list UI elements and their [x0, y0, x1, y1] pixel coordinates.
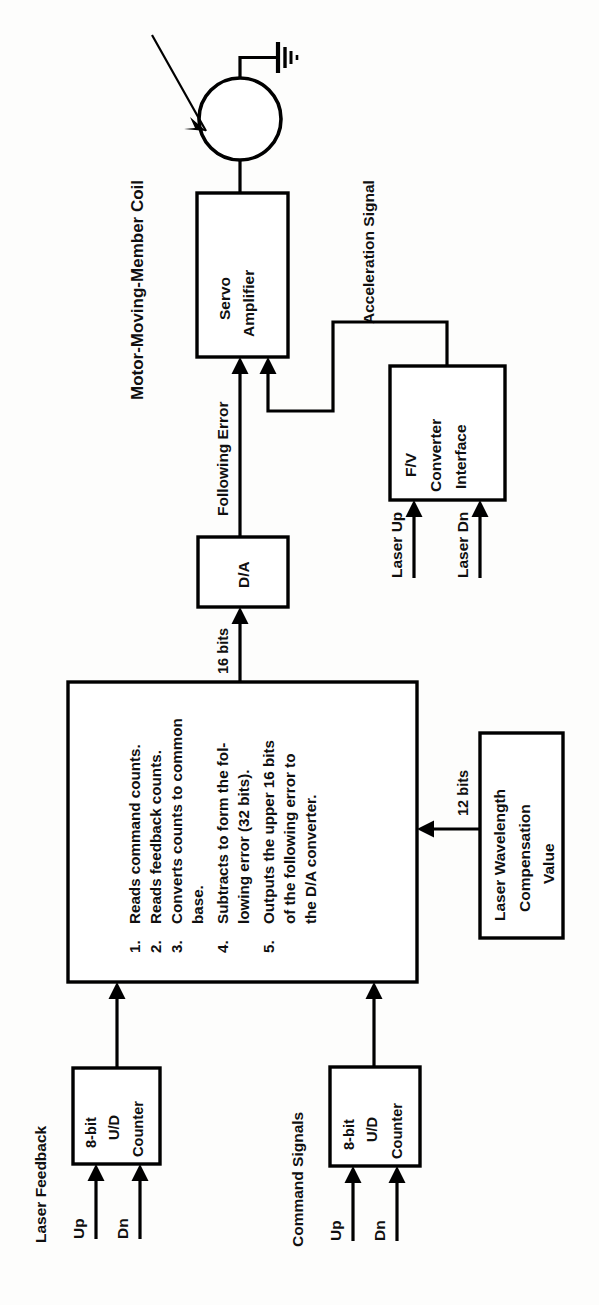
command-counter-line1: 8-bit	[341, 1119, 357, 1150]
servo-amplifier-label-line1: Servo	[216, 277, 233, 320]
laser-wavelength-label-line1: Laser Wavelength	[491, 789, 508, 921]
twelve-bits-label: 12 bits	[455, 770, 471, 816]
acceleration-arrowhead	[260, 357, 277, 374]
laser-feedback-counter-line3: Counter	[130, 1101, 146, 1157]
cpu-item-5-line-3: the D/A converter.	[302, 795, 319, 924]
laser-feedback-group-label: Laser Feedback	[32, 1125, 49, 1243]
feedback-up-label: Up	[70, 1218, 87, 1239]
coil-ground-lead	[240, 58, 278, 79]
laser-wavelength-label-line2: Compensation	[516, 804, 533, 912]
cpu-item-4-line-1: Subtracts to form the fol-	[214, 743, 231, 924]
command-counter-line3: Counter	[389, 1103, 405, 1159]
command-counter-line2: U/D	[364, 1117, 380, 1142]
command-up-label: Up	[327, 1220, 344, 1241]
sixteen-bits-label: 16 bits	[215, 628, 231, 674]
fv-converter-interface-block	[390, 366, 505, 500]
cpu-item-3-line-2: base.	[189, 885, 206, 924]
motor-coil-label: Motor-Moving-Member Coil	[128, 180, 147, 400]
command-dn-label: Dn	[371, 1220, 388, 1241]
sixteen-bits-arrowhead	[232, 607, 249, 624]
cpu-item-5-line-1: Outputs the upper 16 bits	[260, 740, 277, 924]
laser-up-label: Laser Up	[388, 512, 405, 578]
laser-dn-label: Laser Dn	[454, 512, 471, 578]
cpu-item-3-line-1: Converts counts to common	[168, 718, 185, 924]
cpu-item-2-number: 2.	[147, 940, 164, 953]
laser-feedback-counter-line1: 8-bit	[83, 1117, 99, 1148]
acceleration-signal-label: Acceleration Signal	[360, 180, 377, 324]
servo-amplifier-label-line2: Amplifier	[240, 270, 257, 337]
ground-icon	[278, 42, 297, 73]
cpu-item-5-line-2: of the following error to	[281, 754, 298, 924]
feedback-dn-arrowhead	[132, 1164, 149, 1181]
cpu-item-3-number: 3.	[168, 940, 185, 953]
command-signals-counter-block	[330, 1067, 420, 1166]
servo-control-block-diagram: Motor-Moving-Member Coil Servo Amplifier…	[0, 0, 599, 1305]
feedback-up-arrowhead	[88, 1164, 105, 1181]
da-converter-label: D/A	[235, 561, 252, 588]
cpu-item-4-number: 4.	[214, 940, 231, 953]
feedback-dn-label: Dn	[114, 1218, 131, 1239]
fv-converter-label-line1: F/V	[402, 452, 419, 477]
laser-dn-arrowhead	[472, 500, 489, 517]
following-error-arrowhead	[232, 357, 249, 374]
command-counter-arrowhead	[366, 982, 383, 999]
fv-converter-label-line3: Interface	[452, 424, 469, 489]
laser-feedback-counter-line2: U/D	[106, 1115, 122, 1140]
feedback-counter-arrowhead	[109, 982, 126, 999]
command-dn-arrowhead	[389, 1166, 406, 1183]
cpu-item-5-number: 5.	[260, 940, 277, 953]
laser-wavelength-label-line3: Value	[540, 843, 557, 884]
motor-coil-icon	[199, 78, 281, 160]
command-up-arrowhead	[345, 1166, 362, 1183]
following-error-label: Following Error	[214, 401, 231, 516]
cpu-item-4-line-2: lowing error (32 bits).	[235, 770, 252, 924]
cpu-item-2-line-1: Reads feedback counts.	[147, 750, 164, 924]
cpu-item-1-line-1: Reads command counts.	[126, 744, 143, 924]
twelve-bits-arrowhead	[417, 821, 434, 838]
callout-arrow-icon	[152, 35, 206, 131]
command-signals-group-label: Command Signals	[289, 1112, 306, 1247]
laser-up-arrowhead	[406, 500, 423, 517]
cpu-item-1-number: 1.	[126, 940, 143, 953]
fv-converter-label-line2: Converter	[427, 419, 444, 492]
